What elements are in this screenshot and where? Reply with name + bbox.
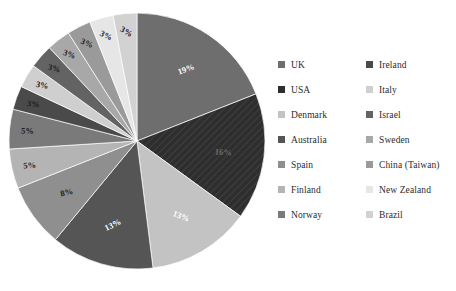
legend-swatch-icon [278,61,285,68]
legend-swatch-icon [366,111,373,118]
legend-swatch-icon [278,161,285,168]
legend-item-italy[interactable]: Italy [366,77,456,102]
legend-item-label: Denmark [291,110,327,120]
legend-item-denmark[interactable]: Denmark [278,102,366,127]
legend-item-label: Spain [291,160,313,170]
legend-item-label: Sweden [379,135,410,145]
legend-swatch-icon [278,211,285,218]
legend-item-brazil[interactable]: Brazil [366,202,456,227]
legend-item-label: Ireland [379,60,407,70]
legend-item-spain[interactable]: Spain [278,152,366,177]
legend-swatch-icon [366,211,373,218]
legend-item-china-taiwan[interactable]: China (Taiwan) [366,152,456,177]
legend-column-left: UKUSADenmarkAustraliaSpainFinlandNorway [278,52,366,227]
legend-item-sweden[interactable]: Sweden [366,127,456,152]
legend-item-norway[interactable]: Norway [278,202,366,227]
pie-slice-value-label: 5% [21,125,34,135]
legend-swatch-icon [366,161,373,168]
chart-legend: UKUSADenmarkAustraliaSpainFinlandNorway … [278,52,456,227]
legend-item-label: Brazil [379,210,403,220]
legend-column-right: IrelandItalyIsraelSwedenChina (Taiwan)Ne… [366,52,456,227]
pie-slice-value-label: 5% [23,160,36,171]
legend-swatch-icon [278,136,285,143]
legend-item-uk[interactable]: UK [278,52,366,77]
pie-slices-group [9,13,265,269]
legend-item-finland[interactable]: Finland [278,177,366,202]
legend-swatch-icon [366,61,373,68]
legend-item-label: New Zealand [379,185,431,195]
legend-swatch-icon [278,111,285,118]
legend-item-label: Israel [379,110,401,120]
legend-item-label: Italy [379,85,397,95]
legend-item-usa[interactable]: USA [278,77,366,102]
legend-item-ireland[interactable]: Ireland [366,52,456,77]
legend-item-label: USA [291,85,310,95]
legend-swatch-icon [278,186,285,193]
legend-item-label: UK [291,60,305,70]
legend-item-label: China (Taiwan) [379,160,440,170]
legend-item-australia[interactable]: Australia [278,127,366,152]
legend-swatch-icon [366,136,373,143]
pie-slice-value-label: 16% [215,147,232,158]
legend-item-new-zealand[interactable]: New Zealand [366,177,456,202]
legend-swatch-icon [278,86,285,93]
pie-chart-svg: 19%16%13%13%8%5%5%3%3%3%3%3%3%3% [0,0,278,291]
legend-item-label: Australia [291,135,327,145]
legend-swatch-icon [366,186,373,193]
legend-item-israel[interactable]: Israel [366,102,456,127]
legend-item-label: Norway [291,210,322,220]
legend-item-label: Finland [291,185,321,195]
legend-swatch-icon [366,86,373,93]
pie-slice-value-label: 3% [27,98,41,109]
pie-chart-figure: 19%16%13%13%8%5%5%3%3%3%3%3%3%3% UKUSADe… [0,0,456,291]
chart-plot-area: 19%16%13%13%8%5%5%3%3%3%3%3%3%3% [0,0,278,291]
